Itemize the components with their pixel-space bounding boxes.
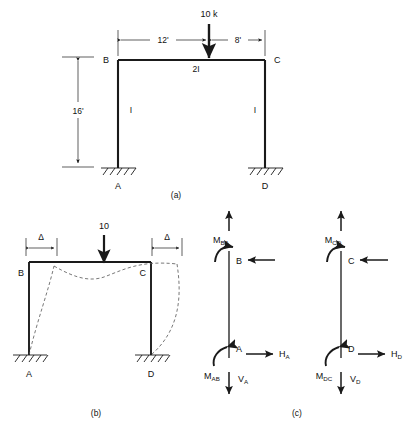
panel-a: 16' 12' 8' 10 k 2I I I B xyxy=(62,9,283,200)
dimension-sidesway-left: Δ xyxy=(26,232,57,256)
panel-c-caption: (c) xyxy=(292,408,302,418)
fbd-node-b-label: B xyxy=(236,256,242,266)
node-b-label: B xyxy=(103,55,109,65)
load-10: 10 xyxy=(99,221,109,263)
node-a-label: A xyxy=(115,181,121,191)
fbd-column-cd: MCD C D HD MDC VD xyxy=(316,211,403,394)
node-c-label: C xyxy=(274,55,281,65)
load-10k: 10 k xyxy=(200,9,218,58)
reaction-vd-label: VD xyxy=(350,374,361,385)
moment-ba-label: MBA xyxy=(213,235,230,246)
moment-ab-label: MAB xyxy=(204,371,220,382)
support-a-fixed-b: A xyxy=(13,355,48,379)
dimension-span: 12' 8' xyxy=(118,30,265,56)
deflected-column-cd xyxy=(151,264,179,355)
moment-ba-arc xyxy=(215,247,233,262)
beam-inertia-label: 2I xyxy=(192,64,199,74)
panel-b-caption: (b) xyxy=(91,408,102,418)
reaction-va-label: VA xyxy=(238,374,249,385)
node-a-label-b: A xyxy=(26,369,32,379)
moment-ab-arc xyxy=(214,347,227,366)
dimension-sidesway-right: Δ xyxy=(152,232,182,256)
load-10-label: 10 xyxy=(99,221,109,231)
deflected-column-ab xyxy=(29,266,54,355)
deflected-shape xyxy=(29,263,179,355)
node-d-label-b: D xyxy=(148,369,155,379)
fbd-node-c-label: C xyxy=(348,256,355,266)
support-a-fixed: A xyxy=(101,168,136,191)
figure-canvas: 16' 12' 8' 10 k 2I I I B xyxy=(0,0,417,430)
moment-dc-arc xyxy=(326,347,339,366)
reaction-ha-label: HA xyxy=(279,349,291,360)
structural-frame-figure: 16' 12' 8' 10 k 2I I I B xyxy=(0,0,417,430)
dimension-12ft-label: 12' xyxy=(157,35,168,45)
fbd-node-a-label: A xyxy=(236,344,242,354)
panel-a-caption: (a) xyxy=(171,190,182,200)
fbd-column-ab: MBA B A HA MAB VA xyxy=(204,211,290,394)
moment-dc-label: MDC xyxy=(316,371,333,382)
column-cd-inertia-label: I xyxy=(254,105,256,115)
sidesway-left-label: Δ xyxy=(38,232,44,242)
support-d-fixed-b: D xyxy=(135,355,170,379)
dimension-8ft-label: 8' xyxy=(235,35,242,45)
node-b-label-b: B xyxy=(18,268,24,278)
node-d-label: D xyxy=(262,181,269,191)
dimension-16ft-label: 16' xyxy=(72,106,83,116)
panel-b: Δ Δ 10 B C xyxy=(13,221,182,418)
dimension-column-height: 16' xyxy=(62,57,94,167)
frame-undeformed xyxy=(29,262,151,355)
deflected-beam-bc xyxy=(54,263,177,279)
support-d-fixed: D xyxy=(248,168,283,191)
sidesway-right-label: Δ xyxy=(164,232,170,242)
frame-members xyxy=(118,60,265,168)
column-ab-inertia-label: I xyxy=(130,105,132,115)
reaction-hd-label: HD xyxy=(391,349,403,360)
fbd-node-d-label: D xyxy=(348,344,355,354)
load-10k-label: 10 k xyxy=(200,9,218,19)
node-c-label-b: C xyxy=(140,268,147,278)
moment-cd-label: MCD xyxy=(325,235,342,246)
moment-cd-arc xyxy=(327,247,345,262)
